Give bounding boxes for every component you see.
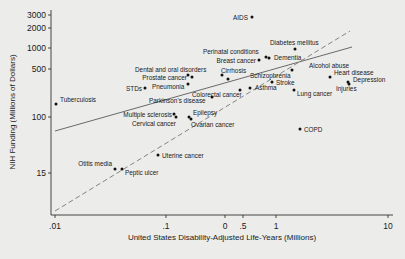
point-marker xyxy=(121,168,124,171)
y-tick-label: 1000 xyxy=(27,43,46,53)
point-marker xyxy=(227,78,230,81)
x-tick-label: 10 xyxy=(383,221,393,231)
point-label: Multiple sclerosis xyxy=(123,111,172,119)
point-marker xyxy=(291,69,294,72)
point-label: Perinatal conditions xyxy=(203,48,259,55)
point-marker xyxy=(258,59,261,62)
data-point: Lung cancer xyxy=(293,89,334,99)
point-label: STDs xyxy=(126,85,142,92)
point-marker xyxy=(293,89,296,92)
point-label: AIDS xyxy=(233,14,248,21)
point-marker xyxy=(211,96,214,99)
point-label: Cirrhosis xyxy=(221,67,246,74)
data-point: Injuries xyxy=(336,83,357,94)
point-marker xyxy=(265,56,268,59)
point-marker xyxy=(268,57,271,60)
point-label: Tuberculosis xyxy=(60,96,96,103)
point-label: Uterine cancer xyxy=(162,152,204,159)
data-point: Pneumonia xyxy=(152,83,190,91)
point-label: Diabetes mellitus xyxy=(270,39,319,46)
x-tick-label: .5 xyxy=(239,221,246,231)
y-tick-label: 3000 xyxy=(27,10,46,20)
y-tick-label: 15 xyxy=(37,168,47,178)
point-marker xyxy=(157,154,160,157)
point-label: COPD xyxy=(304,126,323,133)
point-label: Heart disease xyxy=(334,69,374,76)
x-axis-title: United States Disability-Adjusted Life-Y… xyxy=(128,233,317,242)
point-marker xyxy=(187,83,190,86)
point-marker xyxy=(294,48,297,51)
y-tick-label: 500 xyxy=(32,64,46,74)
x-tick-label: 1 xyxy=(274,221,279,231)
point-label: Stroke xyxy=(276,79,295,86)
data-point: Breast cancer xyxy=(217,57,261,64)
point-marker xyxy=(191,76,194,79)
point-marker xyxy=(249,87,252,90)
point-label: Parkinson's disease xyxy=(149,97,206,104)
x-tick-label: 0 xyxy=(223,221,228,231)
point-marker xyxy=(114,168,117,171)
data-point: Parkinson's disease xyxy=(149,96,214,105)
point-label: Pneumonia xyxy=(152,83,185,90)
point-label: Cervical cancer xyxy=(132,120,177,127)
y-axis-title: NIH Funding (Millions of Dollars) xyxy=(8,54,17,169)
point-label: Breast cancer xyxy=(217,57,257,64)
data-point: Depression xyxy=(347,76,386,84)
point-marker xyxy=(173,113,176,116)
point-label: Otitis media xyxy=(78,160,112,167)
point-label: Injuries xyxy=(336,85,357,93)
y-tick-label: 100 xyxy=(32,112,46,122)
data-point: Peptic ulcer xyxy=(121,168,160,178)
point-label: Ovarian cancer xyxy=(191,121,235,128)
point-label: Alcohol abuse xyxy=(309,62,350,69)
point-marker xyxy=(329,76,332,79)
point-marker xyxy=(251,16,254,19)
scatter-chart: 30002000100050010015 .01.10.5110 AIDSDia… xyxy=(0,0,405,259)
point-label: Dementia xyxy=(274,54,302,61)
point-marker xyxy=(299,128,302,131)
data-point: Multiple sclerosis xyxy=(123,111,175,119)
point-label: Epilepsy xyxy=(193,109,218,117)
point-label: Lung cancer xyxy=(297,90,333,98)
point-marker xyxy=(175,116,178,119)
point-label: Asthma xyxy=(255,84,277,91)
point-label: Dental and oral disorders xyxy=(135,66,206,73)
point-label: Peptic ulcer xyxy=(125,169,159,177)
point-label: Prostate cancer xyxy=(142,74,188,81)
y-tick-label: 2000 xyxy=(27,23,46,33)
data-point: Uterine cancer xyxy=(157,152,205,159)
point-marker xyxy=(144,87,147,90)
point-label: Depression xyxy=(353,76,386,84)
data-point: Prostate cancer xyxy=(142,74,193,81)
x-tick-label: .1 xyxy=(162,221,169,231)
point-marker xyxy=(55,103,58,106)
x-tick-label: .01 xyxy=(49,221,61,231)
